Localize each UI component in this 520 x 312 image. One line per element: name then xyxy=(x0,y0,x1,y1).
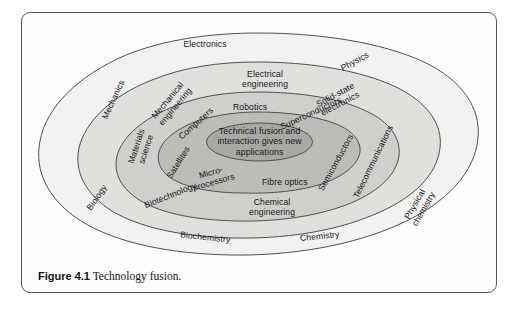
diagram-label: Robotics xyxy=(233,103,267,113)
diagram-label: Fibre optics xyxy=(262,178,308,188)
figure-caption-text: Technology fusion. xyxy=(93,270,182,282)
core-fusion-text: Technical fusion and interaction gives n… xyxy=(218,126,302,159)
diagram-label: Chemical engineering xyxy=(249,198,295,218)
diagram-label: Electronics xyxy=(184,40,227,50)
figure-caption-label: Figure 4.1 xyxy=(38,270,90,282)
figure-caption: Figure 4.1 Technology fusion. xyxy=(38,270,181,282)
diagram-label: Electrical engineering xyxy=(242,70,288,90)
